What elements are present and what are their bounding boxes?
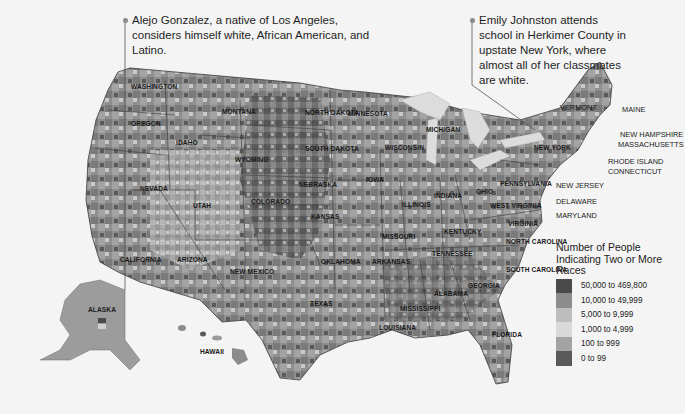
callout-marker-icon (123, 18, 128, 23)
legend-swatch (556, 351, 572, 366)
legend-label: 5,000 to 9,999 (581, 310, 633, 319)
state-label-utah: UTAH (193, 202, 211, 209)
legend-item: 100 to 999 (556, 337, 685, 352)
state-label-illinois: ILLINOIS (402, 201, 431, 208)
legend-label: 1,000 to 4,999 (581, 325, 633, 334)
state-label-florida: FLORIDA (492, 331, 522, 338)
state-label-rhode-island: RHODE ISLAND (608, 158, 663, 166)
map-legend: Number of People Indicating Two or More … (556, 242, 685, 366)
state-label-kansas: KANSAS (311, 213, 339, 220)
state-label-georgia: GEORGIA (468, 282, 500, 289)
callout-emily: Emily Johnston attends school in Herkime… (479, 13, 629, 88)
legend-swatch (556, 322, 572, 337)
state-label-tennessee: TENNESSEE (432, 250, 473, 257)
legend-label: 100 to 999 (581, 339, 620, 348)
legend-label: 50,000 to 469,800 (581, 281, 647, 290)
state-label-idaho: IDAHO (176, 139, 198, 146)
state-label-hawaii: HAWAII (200, 348, 224, 355)
state-label-west-virginia: WEST VIRGINIA (490, 202, 520, 209)
state-label-nebraska: NEBRASKA (299, 181, 337, 188)
legend-swatch (556, 279, 572, 294)
callout-text: Emily Johnston attends school in Herkime… (479, 14, 626, 86)
callout-text: Alejo Gonzalez, a native of Los Angeles,… (132, 14, 369, 56)
legend-swatch (556, 337, 572, 352)
legend-item: 5,000 to 9,999 (556, 308, 685, 323)
legend-item: 1,000 to 4,999 (556, 322, 685, 337)
state-label-new-hampshire: NEW HAMPSHIRE (620, 131, 683, 139)
callout-alejo: Alejo Gonzalez, a native of Los Angeles,… (132, 13, 382, 58)
state-label-indiana: INDIANA (434, 192, 462, 199)
legend-item: 10,000 to 49,999 (556, 293, 685, 308)
state-label-wyoming: WYOMING (235, 156, 269, 163)
state-label-california: CALIFORNIA (120, 256, 162, 263)
state-label-oklahoma: OKLAHOMA (321, 258, 361, 265)
state-label-massachusetts: MASSACHUSETTS (618, 141, 684, 149)
state-label-montana: MONTANA (222, 108, 256, 115)
legend-item: 0 to 99 (556, 351, 685, 366)
state-label-virginia: VIRGINIA (508, 220, 538, 227)
state-label-alaska: ALASKA (88, 306, 116, 313)
state-label-delaware: DELAWARE (556, 198, 597, 206)
state-label-kentucky: KENTUCKY (444, 228, 481, 235)
state-label-vermont: VERMONT (560, 104, 597, 112)
state-label-maryland: MARYLAND (556, 212, 597, 220)
legend-swatch (556, 308, 572, 323)
state-label-colorado: COLORADO (251, 198, 290, 205)
state-label-north-dakota: NORTH DAKOTA (305, 109, 339, 116)
state-label-louisiana: LOUISIANA (379, 324, 416, 331)
state-label-mississippi: MISSISSIPPI (400, 305, 440, 312)
legend-label: 0 to 99 (581, 354, 606, 363)
state-label-north-carolina: NORTH CAROLINA (506, 238, 540, 245)
state-label-nevada: NEVADA (140, 185, 168, 192)
state-label-south-dakota: SOUTH DAKOTA (305, 145, 339, 152)
state-label-washington: WASHINGTON (131, 83, 177, 90)
state-label-missouri: MISSOURI (382, 233, 415, 240)
state-label-pennsylvania: PENNSYLVANIA (500, 180, 552, 187)
state-label-new-mexico: NEW MEXICO (230, 268, 274, 275)
state-label-michigan: MICHIGAN (426, 126, 460, 133)
state-label-arkansas: ARKANSAS (372, 258, 410, 265)
state-label-arizona: ARIZONA (177, 256, 208, 263)
state-label-iowa: IOWA (366, 176, 384, 183)
state-label-alabama: ALABAMA (434, 290, 468, 297)
state-label-texas: TEXAS (310, 300, 332, 307)
state-label-ohio: OHIO (476, 188, 493, 195)
state-label-wisconsin: WISCONSIN (385, 144, 424, 151)
state-label-new-jersey: NEW JERSEY (556, 182, 604, 190)
legend-item: 50,000 to 469,800 (556, 279, 685, 294)
callout-marker-icon (470, 18, 475, 23)
state-label-new-york: NEW YORK (534, 144, 556, 151)
legend-swatch (556, 293, 572, 308)
legend-title: Number of People Indicating Two or More … (556, 242, 685, 277)
state-label-south-carolina: SOUTH CAROLINA (506, 266, 540, 273)
state-label-minnesota: MINNESOTA (348, 110, 388, 117)
legend-label: 10,000 to 49,999 (581, 296, 642, 305)
state-label-connecticut: CONNECTICUT (608, 168, 662, 176)
state-label-oregon: OREGON (131, 120, 161, 127)
state-label-maine: MAINE (622, 106, 645, 114)
